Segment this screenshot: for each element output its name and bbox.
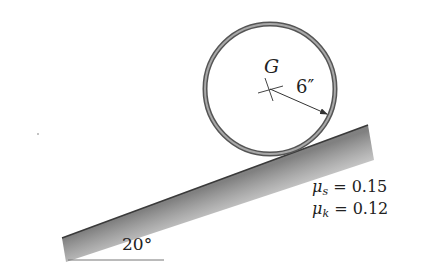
mu-symbol: μ bbox=[312, 199, 322, 218]
incline-angle-label: 20° bbox=[122, 234, 152, 254]
center-of-mass-label: G bbox=[264, 55, 279, 77]
static-friction-value: = 0.15 bbox=[328, 177, 387, 196]
static-friction-coefficient: μs = 0.15 bbox=[312, 177, 387, 198]
kinetic-friction-coefficient: μk = 0.12 bbox=[312, 199, 388, 220]
mu-symbol: μ bbox=[312, 177, 322, 196]
hoop-on-incline-diagram bbox=[0, 0, 433, 271]
kinetic-friction-value: = 0.12 bbox=[329, 199, 388, 218]
stray-mark bbox=[37, 133, 39, 135]
radius-label: 6″ bbox=[296, 76, 314, 97]
